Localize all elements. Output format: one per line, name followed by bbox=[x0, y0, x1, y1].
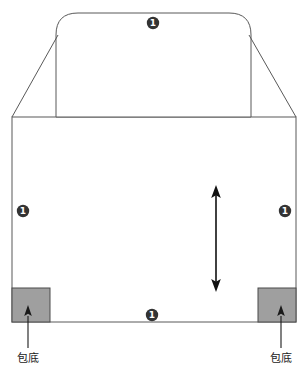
gusset-left bbox=[12, 288, 50, 322]
gusset-fold-right bbox=[249, 35, 296, 117]
badge-bottom-label: 1 bbox=[149, 310, 155, 320]
badge-right-label: 1 bbox=[282, 206, 288, 216]
badge-top: 1 bbox=[147, 17, 159, 29]
body-panel bbox=[12, 117, 296, 322]
bag-construction-diagram: 1 1 1 1 包底 包底 bbox=[0, 0, 307, 378]
callout-label-left: 包底 bbox=[17, 351, 39, 365]
gusset-fold-left bbox=[12, 35, 58, 117]
badge-top-label: 1 bbox=[150, 18, 156, 28]
diagram-canvas: 1 1 1 1 包底 包底 bbox=[0, 0, 307, 378]
badge-left-label: 1 bbox=[20, 206, 26, 216]
gusset-right bbox=[258, 288, 296, 322]
badge-left: 1 bbox=[17, 205, 29, 217]
badge-right: 1 bbox=[279, 205, 291, 217]
callout-label-right: 包底 bbox=[270, 351, 292, 365]
badge-bottom: 1 bbox=[146, 309, 158, 321]
